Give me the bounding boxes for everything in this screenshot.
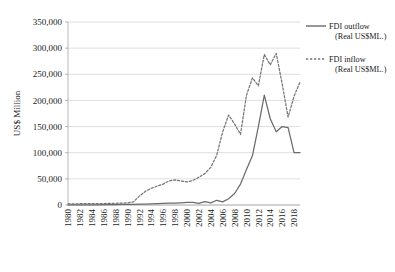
series-group — [68, 53, 300, 205]
chart-page: 050,000100,000150,000200,000250,000300,0… — [0, 0, 395, 272]
x-tick-label-0: 1980 — [63, 209, 73, 228]
x-tick-label-13: 2006 — [218, 209, 228, 228]
x-tick-label-10: 2000 — [182, 209, 192, 228]
x-tick-label-4: 1988 — [111, 209, 121, 228]
y-tick-label-3: 150,000 — [33, 122, 63, 132]
y-tick-label-5: 250,000 — [33, 69, 63, 79]
x-tick-label-17: 2014 — [265, 209, 275, 228]
x-tick-label-18: 2016 — [277, 209, 287, 228]
y-axis-title: US$ Million — [12, 90, 22, 136]
x-tick-label-1: 1982 — [75, 209, 85, 227]
legend-label-0-line2: (Real US$ML.) — [335, 32, 387, 41]
x-tick-label-16: 2012 — [254, 209, 264, 227]
x-tick-label-8: 1996 — [158, 209, 168, 228]
series-line-inflow — [68, 53, 300, 204]
x-tick-labels-group: 1980198219841986198819901992199419961998… — [63, 209, 299, 228]
x-tick-label-11: 2002 — [194, 209, 204, 227]
legend-label-1-line1: FDI inflow — [329, 55, 366, 64]
y-tick-label-6: 300,000 — [33, 43, 63, 53]
axes-group — [65, 22, 300, 205]
x-tick-label-14: 2008 — [230, 209, 240, 228]
y-tick-labels-group: 050,000100,000150,000200,000250,000300,0… — [33, 17, 63, 210]
x-tick-label-12: 2004 — [206, 209, 216, 228]
x-tick-label-6: 1992 — [135, 209, 145, 227]
gridlines-group — [68, 22, 300, 205]
fdi-line-chart: 050,000100,000150,000200,000250,000300,0… — [0, 0, 395, 272]
y-tick-label-4: 200,000 — [33, 96, 63, 106]
y-tick-label-7: 350,000 — [33, 17, 63, 27]
x-tick-label-7: 1994 — [146, 209, 156, 228]
x-tick-label-5: 1990 — [123, 209, 133, 228]
y-tick-label-2: 100,000 — [33, 148, 63, 158]
legend-group: FDI outflow(Real US$ML.)FDI inflow(Real … — [306, 22, 387, 74]
series-line-outflow — [68, 95, 300, 205]
y-tick-label-0: 0 — [58, 200, 63, 210]
x-tick-label-9: 1998 — [170, 209, 180, 228]
x-tick-label-19: 2018 — [289, 209, 299, 228]
legend-label-0-line1: FDI outflow — [329, 22, 370, 31]
x-tick-label-2: 1984 — [87, 209, 97, 228]
legend-label-1-line2: (Real US$ML.) — [335, 65, 387, 74]
y-axis-title-group: US$ Million — [12, 90, 22, 136]
y-tick-label-1: 50,000 — [37, 174, 62, 184]
x-tick-label-15: 2010 — [242, 209, 252, 228]
x-tick-label-3: 1986 — [99, 209, 109, 228]
